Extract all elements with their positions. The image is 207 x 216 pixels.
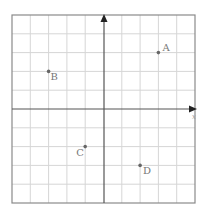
point-c-marker [83, 145, 87, 149]
point-a-label: A [161, 42, 170, 53]
x-axis-arrow-icon [189, 106, 197, 113]
coordinate-plane: x ABCD [0, 0, 207, 216]
point-b-label: B [51, 71, 58, 82]
point-d-marker [138, 164, 142, 168]
point-c-label: C [76, 147, 84, 158]
point-d-label: D [143, 165, 151, 176]
x-axis-label: x [192, 113, 196, 121]
point-a-marker [157, 51, 161, 55]
